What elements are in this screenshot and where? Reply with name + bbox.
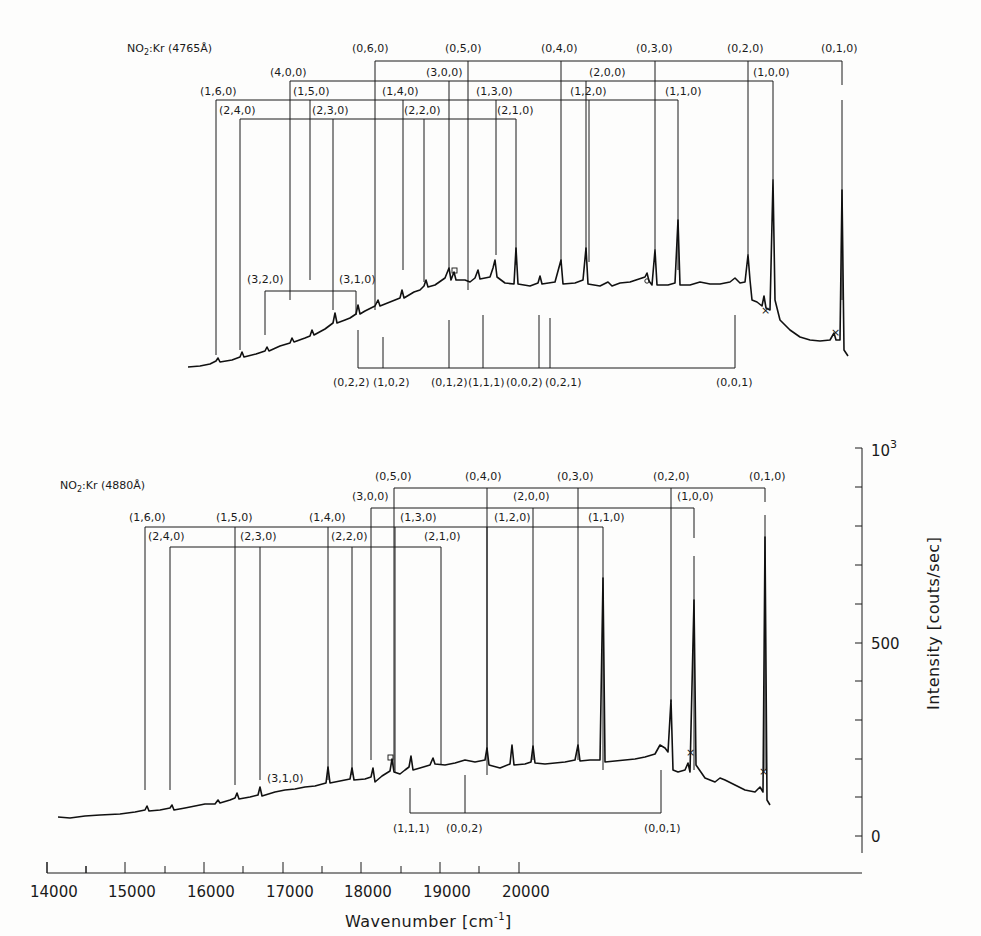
svg-text:20000: 20000 (502, 883, 550, 901)
y-tick-top: 103 (871, 438, 897, 460)
y-tick-500: 500 (871, 635, 900, 653)
svg-text:(0,2,1): (0,2,1) (545, 376, 582, 389)
cross-marker-icon: × (686, 746, 695, 759)
svg-text:(4,0,0): (4,0,0) (270, 66, 307, 79)
svg-text:(1,6,0): (1,6,0) (200, 85, 237, 98)
bottom-upper-labels: (0,5,0) (0,4,0) (0,3,0) (0,2,0) (0,1,0) … (129, 470, 786, 785)
svg-text:(2,2,0): (2,2,0) (404, 104, 441, 117)
svg-text:(1,6,0): (1,6,0) (129, 511, 166, 524)
svg-text:(0,3,0): (0,3,0) (636, 42, 673, 55)
svg-text:(2,4,0): (2,4,0) (148, 530, 185, 543)
bottom-panel-title: NO2:Kr (4880Å) (60, 479, 145, 494)
raman-spectra-figure: NO2:Kr (4765Å) (0,6,0) (0,5,0) (0,4,0) (… (0, 0, 981, 936)
svg-text:(1,1,0): (1,1,0) (665, 85, 702, 98)
top-panel-title: NO2:Kr (4765Å) (127, 42, 212, 57)
svg-text:(0,6,0): (0,6,0) (352, 42, 389, 55)
svg-text:(0,4,0): (0,4,0) (465, 470, 502, 483)
svg-text:(2,1,0): (2,1,0) (424, 530, 461, 543)
svg-text:(0,2,2): (0,2,2) (333, 376, 370, 389)
cross-marker-icon: × (761, 304, 770, 317)
svg-text:(1,4,0): (1,4,0) (309, 511, 346, 524)
svg-text:(0,4,0): (0,4,0) (541, 42, 578, 55)
bottom-lower-labels: (1,1,1) (0,0,2) (0,0,1) (393, 822, 681, 835)
svg-text:(1,3,0): (1,3,0) (476, 85, 513, 98)
svg-text:(0,5,0): (0,5,0) (445, 42, 482, 55)
svg-text:(2,1,0): (2,1,0) (497, 104, 534, 117)
svg-text:(0,0,2): (0,0,2) (506, 376, 543, 389)
svg-text:(0,0,2): (0,0,2) (446, 822, 483, 835)
svg-text:(2,0,0): (2,0,0) (589, 66, 626, 79)
svg-text:(0,1,0): (0,1,0) (749, 470, 786, 483)
cross-marker-icon: × (759, 765, 768, 778)
svg-text:(0,2,0): (0,2,0) (653, 470, 690, 483)
svg-text:(1,2,0): (1,2,0) (570, 85, 607, 98)
svg-text:(1,5,0): (1,5,0) (293, 85, 330, 98)
svg-text:(1,2,0): (1,2,0) (494, 511, 531, 524)
x-axis-title: Wavenumber [cm-1] (345, 911, 512, 931)
y-tick-0: 0 (871, 828, 881, 846)
svg-text:(0,1,0): (0,1,0) (821, 42, 858, 55)
svg-text:(2,0,0): (2,0,0) (513, 490, 550, 503)
y-axis: 103 500 0 Intensity [couts/sec] (855, 438, 943, 853)
svg-text:(1,3,0): (1,3,0) (400, 511, 437, 524)
svg-text:(2,4,0): (2,4,0) (219, 104, 256, 117)
svg-text:(1,1,1): (1,1,1) (393, 822, 430, 835)
bottom-spectrum-trace (58, 537, 770, 818)
svg-text:(1,5,0): (1,5,0) (216, 511, 253, 524)
svg-text:(3,1,0): (3,1,0) (267, 772, 304, 785)
svg-text:(3,0,0): (3,0,0) (352, 490, 389, 503)
svg-text:(0,3,0): (0,3,0) (557, 470, 594, 483)
svg-text:14000: 14000 (30, 883, 78, 901)
svg-text:19000: 19000 (423, 883, 471, 901)
svg-text:(0,1,2): (0,1,2) (431, 376, 468, 389)
bottom-panel: NO2:Kr (4880Å) (0,5,0) (0,4,0) (0,3,0) (… (58, 470, 786, 835)
svg-text:17000: 17000 (266, 883, 314, 901)
svg-text:16000: 16000 (187, 883, 235, 901)
svg-text:(3,1,0): (3,1,0) (339, 273, 376, 286)
top-markers: × × (452, 268, 840, 339)
x-axis: 14000 15000 16000 17000 18000 19000 2000… (30, 862, 862, 931)
svg-text:18000: 18000 (344, 883, 392, 901)
svg-text:15000: 15000 (108, 883, 156, 901)
svg-text:(1,0,0): (1,0,0) (753, 66, 790, 79)
svg-text:(1,4,0): (1,4,0) (382, 85, 419, 98)
svg-text:(1,1,0): (1,1,0) (588, 511, 625, 524)
svg-text:(0,0,1): (0,0,1) (716, 376, 753, 389)
x-tick-labels: 14000 15000 16000 17000 18000 19000 2000… (30, 883, 550, 901)
top-panel: NO2:Kr (4765Å) (0,6,0) (0,5,0) (0,4,0) (… (127, 42, 858, 389)
svg-text:(3,2,0): (3,2,0) (247, 273, 284, 286)
svg-text:(1,1,1): (1,1,1) (468, 376, 505, 389)
svg-text:(3,0,0): (3,0,0) (426, 66, 463, 79)
svg-text:(1,0,0): (1,0,0) (677, 490, 714, 503)
y-axis-title: Intensity [couts/sec] (924, 537, 943, 710)
svg-text:(0,5,0): (0,5,0) (375, 470, 412, 483)
top-lower-labels: (0,2,2) (1,0,2) (0,1,2) (1,1,1) (0,0,2) … (333, 376, 753, 389)
top-spectrum-trace (188, 180, 848, 367)
svg-text:(0,2,0): (0,2,0) (727, 42, 764, 55)
svg-text:(0,0,1): (0,0,1) (644, 822, 681, 835)
svg-text:(2,3,0): (2,3,0) (240, 530, 277, 543)
svg-text:(2,2,0): (2,2,0) (331, 530, 368, 543)
top-upper-labels: (0,6,0) (0,5,0) (0,4,0) (0,3,0) (0,2,0) … (200, 42, 858, 286)
svg-text:(1,0,2): (1,0,2) (373, 376, 410, 389)
cross-marker-icon: × (831, 326, 840, 339)
svg-text:(2,3,0): (2,3,0) (312, 104, 349, 117)
